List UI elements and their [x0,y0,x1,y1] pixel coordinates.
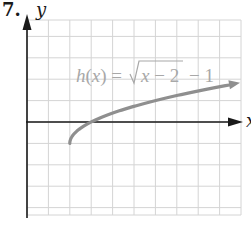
graph-of-h: 7. y x h(x) = x − 2 − 1 [0,0,251,233]
svg-text:h(x) =: h(x) = [76,65,122,87]
svg-text:x − 2: x − 2 [140,65,179,86]
y-axis-arrowhead-icon [23,14,32,30]
function-curve [70,84,234,143]
curve-arrowhead-icon [228,80,240,89]
y-axis-label: y [35,0,47,20]
coordinate-grid [27,20,241,215]
axes [23,14,244,218]
problem-number: 7. [2,0,21,20]
svg-text:− 1: − 1 [189,65,214,86]
x-axis-label: x [246,110,251,131]
function-label: h(x) = x − 2 − 1 [76,61,214,87]
